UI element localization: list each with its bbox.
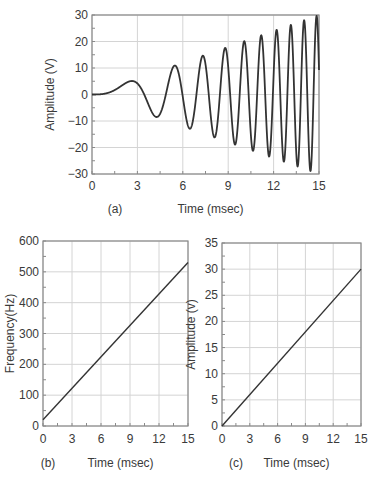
y-tick-labels: 05101520253035 — [205, 236, 219, 433]
svg-text:−10: −10 — [68, 114, 89, 128]
svg-text:6: 6 — [98, 432, 105, 446]
svg-text:300: 300 — [19, 327, 39, 341]
grid-lines — [222, 243, 361, 426]
plot-frame — [222, 243, 361, 426]
svg-text:9: 9 — [225, 179, 232, 193]
svg-text:3: 3 — [134, 179, 141, 193]
svg-text:600: 600 — [19, 234, 39, 248]
svg-text:0: 0 — [40, 432, 47, 446]
svg-text:6: 6 — [179, 179, 186, 193]
svg-text:15: 15 — [181, 432, 195, 446]
svg-text:30: 30 — [205, 262, 219, 276]
data-line — [43, 263, 188, 420]
chart-b-frequency-vs-time: 036912150100200300400500600(b)Time (msec… — [3, 234, 195, 470]
grid-lines — [43, 241, 188, 426]
x-tick-labels: 03691215 — [219, 432, 368, 446]
svg-text:25: 25 — [205, 288, 219, 302]
svg-text:0: 0 — [211, 419, 218, 433]
svg-text:100: 100 — [19, 388, 39, 402]
svg-text:10: 10 — [205, 367, 219, 381]
svg-text:9: 9 — [302, 432, 309, 446]
panel-label: (c) — [229, 456, 243, 470]
svg-text:−30: −30 — [68, 167, 89, 181]
svg-text:3: 3 — [246, 432, 253, 446]
svg-text:10: 10 — [75, 61, 89, 75]
x-tick-labels: 03691215 — [40, 432, 195, 446]
svg-text:12: 12 — [152, 432, 166, 446]
svg-text:30: 30 — [75, 8, 89, 22]
svg-text:20: 20 — [75, 35, 89, 49]
y-tick-labels: 0100200300400500600 — [19, 234, 39, 433]
y-axis-label: Frequency(Hz) — [3, 294, 17, 373]
y-axis-label: Amplitude (v) — [184, 299, 198, 370]
chart-c-amplitude-envelope-vs-time: 0369121505101520253035(c)Time (msec)Ampl… — [184, 236, 368, 470]
svg-text:400: 400 — [19, 296, 39, 310]
y-axis-label: Amplitude (V) — [43, 58, 57, 131]
svg-text:0: 0 — [81, 88, 88, 102]
svg-text:35: 35 — [205, 236, 219, 250]
svg-text:12: 12 — [327, 432, 341, 446]
svg-text:0: 0 — [219, 432, 226, 446]
svg-text:12: 12 — [267, 179, 281, 193]
svg-text:20: 20 — [205, 314, 219, 328]
svg-text:500: 500 — [19, 265, 39, 279]
x-axis-label: Time (msec) — [263, 456, 329, 470]
panel-label: (a) — [108, 202, 123, 216]
svg-text:0: 0 — [32, 419, 39, 433]
y-tick-labels: −30−20−100102030 — [68, 8, 89, 181]
svg-text:0: 0 — [89, 179, 96, 193]
svg-text:9: 9 — [127, 432, 134, 446]
chart-a-amplitude-vs-time: 03691215−30−20−100102030(a)Time (msec)Am… — [43, 8, 326, 216]
panel-label: (b) — [41, 456, 56, 470]
svg-text:15: 15 — [205, 341, 219, 355]
svg-text:−20: −20 — [68, 141, 89, 155]
x-axis-label: Time (msec) — [177, 202, 243, 216]
svg-text:3: 3 — [69, 432, 76, 446]
chirp-figure: 03691215−30−20−100102030(a)Time (msec)Am… — [0, 0, 372, 478]
svg-text:6: 6 — [274, 432, 281, 446]
x-tick-labels: 03691215 — [89, 179, 326, 193]
svg-text:5: 5 — [211, 393, 218, 407]
x-axis-label: Time (msec) — [87, 456, 153, 470]
svg-text:15: 15 — [312, 179, 326, 193]
svg-text:15: 15 — [354, 432, 368, 446]
svg-text:200: 200 — [19, 357, 39, 371]
